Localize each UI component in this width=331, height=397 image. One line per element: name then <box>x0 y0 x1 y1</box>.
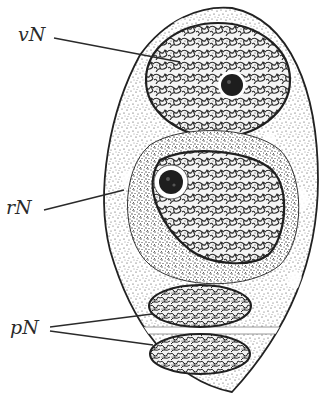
nucleolus-vN <box>221 74 243 96</box>
cell-diagram: vN rN pN <box>0 0 331 397</box>
separation-band <box>100 327 330 334</box>
label-rN: rN <box>6 198 32 217</box>
nucleus-pN-lower <box>150 334 250 374</box>
leader-line-pN-upper <box>50 314 152 327</box>
nucleus-pN-upper <box>149 285 251 327</box>
label-pN: pN <box>10 318 39 337</box>
cell-illustration <box>0 0 331 397</box>
nucleus-vN <box>146 23 290 137</box>
leader-line-pN-lower <box>50 331 153 345</box>
nucleolus-rN <box>159 170 183 194</box>
label-vN: vN <box>18 25 45 44</box>
